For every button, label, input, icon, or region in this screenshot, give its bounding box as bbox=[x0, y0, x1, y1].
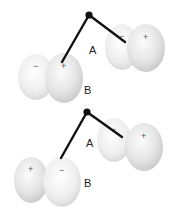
top-pivot-dot bbox=[85, 11, 92, 18]
bottom-label-b: B bbox=[84, 177, 91, 189]
top-diagram: − + − + A B bbox=[18, 11, 165, 103]
top-label-a: A bbox=[89, 44, 97, 56]
top-rod-b bbox=[62, 15, 89, 62]
top-molecule-b: − + bbox=[18, 53, 83, 103]
top-a-positive-sign: + bbox=[143, 32, 148, 42]
bottom-a-positive-sign: + bbox=[141, 131, 146, 141]
top-label-b: B bbox=[84, 84, 91, 96]
top-b-negative-sign: − bbox=[33, 61, 38, 71]
bottom-b-negative-sign: − bbox=[59, 165, 64, 175]
bottom-rod-b bbox=[61, 112, 87, 158]
bottom-molecule-b: + − bbox=[14, 157, 81, 207]
bottom-pivot-dot bbox=[83, 108, 90, 115]
dipole-diagram: − + − + A B − + + − A B bbox=[0, 0, 174, 220]
top-molecule-a: − + bbox=[105, 24, 165, 72]
bottom-diagram: − + + − A B bbox=[14, 108, 163, 207]
bottom-b-positive-sign: + bbox=[28, 164, 33, 174]
bottom-label-a: A bbox=[86, 137, 94, 149]
